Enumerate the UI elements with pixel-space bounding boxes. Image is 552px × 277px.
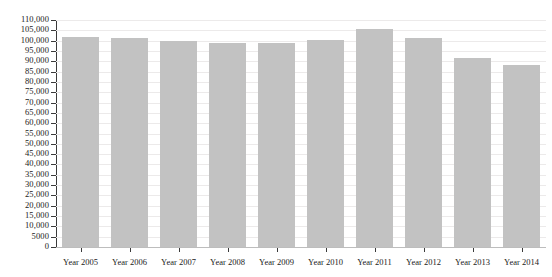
x-tick-mark: [277, 248, 278, 252]
y-tick-mark: [51, 206, 56, 207]
y-tick-label: 105,000: [21, 25, 49, 34]
x-tick-label: Year 2005: [56, 257, 105, 267]
y-tick-mark: [51, 247, 56, 248]
y-tick-mark: [51, 20, 56, 21]
bar: [356, 29, 392, 247]
y-tick-mark: [51, 61, 56, 62]
y-tick-mark: [51, 30, 56, 31]
y-tick-mark: [51, 113, 56, 114]
y-tick-mark: [51, 144, 56, 145]
x-tick-label: Year 2006: [105, 257, 154, 267]
x-tick-label: Year 2009: [252, 257, 301, 267]
x-tick-mark: [130, 248, 131, 252]
x-tick-label: Year 2007: [154, 257, 203, 267]
bar: [111, 38, 147, 247]
y-tick-label: 25,000: [25, 190, 49, 199]
x-tick-label: Year 2008: [203, 257, 252, 267]
y-tick-mark: [51, 226, 56, 227]
y-tick-mark: [51, 72, 56, 73]
y-tick-mark: [51, 51, 56, 52]
x-tick-mark: [228, 248, 229, 252]
y-tick-mark: [51, 82, 56, 83]
x-tick-mark: [375, 248, 376, 252]
bar: [209, 43, 245, 247]
y-tick-mark: [51, 185, 56, 186]
x-tick-label: Year 2014: [497, 257, 546, 267]
gridline: [56, 30, 546, 31]
y-tick-mark: [51, 123, 56, 124]
y-tick-label: 50,000: [25, 139, 49, 148]
y-tick-mark: [51, 175, 56, 176]
x-tick-mark: [522, 248, 523, 252]
y-tick-label: 30,000: [25, 180, 49, 189]
bar: [62, 37, 98, 247]
y-tick-label: 85,000: [25, 67, 49, 76]
gridline: [56, 20, 546, 21]
x-tick-label: Year 2011: [350, 257, 399, 267]
x-tick-label: Year 2013: [448, 257, 497, 267]
y-tick-label: 60,000: [25, 118, 49, 127]
y-tick-label: 35,000: [25, 170, 49, 179]
x-tick-mark: [473, 248, 474, 252]
y-tick-label: 0: [45, 242, 49, 251]
y-tick-mark: [51, 92, 56, 93]
bar: [258, 43, 294, 247]
x-tick-label: Year 2010: [301, 257, 350, 267]
x-tick-mark: [424, 248, 425, 252]
y-tick-label: 10,000: [25, 221, 49, 230]
y-tick-mark: [51, 134, 56, 135]
plot-area: [56, 20, 546, 247]
x-tick-label: Year 2012: [399, 257, 448, 267]
y-tick-label: 65,000: [25, 108, 49, 117]
y-tick-label: 5000: [32, 232, 49, 241]
y-tick-label: 100,000: [21, 36, 49, 45]
y-tick-label: 45,000: [25, 149, 49, 158]
x-tick-mark: [326, 248, 327, 252]
y-tick-mark: [51, 103, 56, 104]
y-tick-label: 20,000: [25, 201, 49, 210]
y-tick-label: 110,000: [21, 15, 49, 24]
y-tick-mark: [51, 237, 56, 238]
y-tick-label: 90,000: [25, 56, 49, 65]
bar-chart: 0500010,00015,00020,00025,00030,00035,00…: [0, 0, 552, 277]
y-tick-label: 40,000: [25, 159, 49, 168]
y-tick-mark: [51, 195, 56, 196]
y-tick-mark: [51, 41, 56, 42]
y-tick-mark: [51, 216, 56, 217]
y-tick-mark: [51, 164, 56, 165]
y-tick-label: 15,000: [25, 211, 49, 220]
y-tick-label: 75,000: [25, 87, 49, 96]
y-tick-label: 70,000: [25, 98, 49, 107]
bar: [503, 65, 539, 247]
x-tick-mark: [179, 248, 180, 252]
y-tick-label: 55,000: [25, 129, 49, 138]
bar: [160, 41, 196, 247]
bar: [405, 38, 441, 247]
x-tick-mark: [81, 248, 82, 252]
y-tick-mark: [51, 154, 56, 155]
y-axis-labels: 0500010,00015,00020,00025,00030,00035,00…: [0, 0, 49, 277]
y-tick-label: 95,000: [25, 46, 49, 55]
bar: [307, 40, 343, 247]
bar: [454, 58, 490, 247]
y-tick-label: 80,000: [25, 77, 49, 86]
